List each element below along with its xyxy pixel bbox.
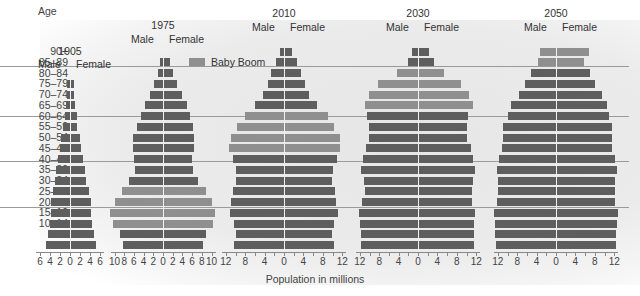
bar-female-65–69 (419, 101, 473, 109)
bar-female-30–34 (285, 177, 332, 185)
bar-male-0–4 (123, 241, 163, 249)
center-line (418, 48, 419, 253)
bar-female-35–39 (285, 166, 333, 174)
bar-male-50–54 (503, 134, 556, 142)
bar-male-75–79 (378, 80, 418, 88)
bar-female-45–49 (71, 144, 81, 152)
bar-female-0–4 (557, 241, 616, 249)
x-tick-label: 12 (604, 256, 624, 267)
bar-male-55–59 (237, 123, 284, 131)
bar-female-5–9 (557, 230, 616, 238)
bar-female-30–34 (71, 177, 86, 185)
age-axis-title: Age (38, 5, 57, 17)
bar-female-30–34 (419, 177, 473, 185)
bar-male-80–84 (397, 69, 418, 77)
x-tick-label: 8 (585, 256, 605, 267)
x-axis-label: Population in millions (200, 273, 430, 285)
bar-female-50–54 (285, 134, 340, 142)
bar-male-45–49 (60, 144, 70, 152)
female-label: Female (169, 33, 204, 45)
bar-male-40–44 (58, 155, 70, 163)
bar-female-75–79 (285, 80, 305, 88)
bar-female-10–14 (419, 220, 474, 228)
bar-female-20–24 (164, 198, 212, 206)
bar-female-35–39 (164, 166, 193, 174)
bar-female-75–79 (419, 80, 461, 88)
x-tick-label: 8 (235, 256, 255, 267)
bar-male-50–54 (231, 134, 284, 142)
bar-male-45–49 (502, 144, 556, 152)
x-tick-label: 8 (369, 256, 389, 267)
female-label: Female (562, 21, 597, 33)
bar-female-0–4 (419, 241, 474, 249)
bar-male-5–9 (48, 230, 70, 238)
x-tick-label: 8 (447, 256, 467, 267)
x-tick-label: 4 (389, 256, 409, 267)
bar-male-75–79 (154, 80, 163, 88)
bar-female-55–59 (419, 123, 467, 131)
bar-male-25–29 (122, 187, 163, 195)
bar-female-25–29 (285, 187, 335, 195)
bar-male-0–4 (361, 241, 418, 249)
bar-male-45–49 (366, 144, 418, 152)
male-label: Male (252, 21, 275, 33)
center-line (70, 80, 71, 252)
bar-female-40–44 (71, 155, 83, 163)
bar-female-25–29 (557, 187, 615, 195)
bar-male-85–89 (276, 58, 284, 66)
bar-male-25–29 (53, 187, 71, 195)
bar-male-10–14 (50, 220, 70, 228)
bar-male-70–74 (150, 91, 163, 99)
bar-female-60–64 (164, 112, 190, 120)
bar-female-40–44 (164, 155, 192, 163)
center-line (556, 48, 557, 253)
age-label: 65–69 (0, 100, 68, 111)
bar-male-15–19 (110, 209, 163, 217)
bar-male-50–54 (133, 134, 163, 142)
bar-female-65–69 (71, 101, 75, 109)
bar-male-20–24 (51, 198, 70, 206)
bar-female-55–59 (164, 123, 193, 131)
center-line (284, 48, 285, 253)
bar-male-50–54 (369, 134, 418, 142)
bar-female-65–69 (285, 101, 317, 109)
bar-female-45–49 (164, 144, 194, 152)
bar-male-5–9 (495, 230, 556, 238)
bar-male-30–34 (364, 177, 418, 185)
bar-female-35–39 (71, 166, 85, 174)
bar-female-70–74 (285, 91, 309, 99)
bar-female-75–79 (557, 80, 595, 88)
bar-female-65–69 (164, 101, 187, 109)
bar-male-30–34 (55, 177, 71, 185)
bar-female-5–9 (285, 230, 332, 238)
bar-male-35–39 (56, 166, 71, 174)
year-title-1905: 1905 (40, 45, 100, 57)
bar-female-85–89 (557, 58, 584, 66)
x-tick-label: 12 (216, 256, 236, 267)
bar-female-50–54 (419, 134, 467, 142)
bar-male-75–79 (525, 80, 556, 88)
bar-male-60–64 (508, 112, 556, 120)
bar-female-25–29 (419, 187, 472, 195)
bar-male-35–39 (497, 166, 556, 174)
bar-female-10–14 (71, 220, 92, 228)
bar-female-90+ (557, 48, 589, 56)
bar-female-55–59 (285, 123, 334, 131)
bar-female-45–49 (557, 144, 612, 152)
bar-female-10–14 (285, 220, 334, 228)
bar-male-60–64 (367, 112, 418, 120)
year-title-2050: 2050 (526, 7, 586, 19)
bar-female-70–74 (164, 91, 182, 99)
bar-female-30–34 (557, 177, 615, 185)
bar-female-80–84 (164, 69, 173, 77)
male-label: Male (131, 33, 154, 45)
center-line (163, 58, 164, 252)
bar-male-65–69 (365, 101, 418, 109)
x-tick-label: 4 (427, 256, 447, 267)
female-label: Female (424, 21, 459, 33)
bar-male-25–29 (233, 187, 284, 195)
bar-female-25–29 (71, 187, 89, 195)
bar-male-0–4 (46, 241, 70, 249)
bar-female-70–74 (419, 91, 469, 99)
bar-male-10–14 (495, 220, 556, 228)
